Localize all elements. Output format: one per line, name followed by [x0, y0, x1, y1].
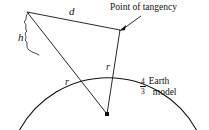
- radio-horizon-diagram: d h r r Point of tangency 4 3 Earth mode…: [0, 0, 209, 130]
- fraction-four-thirds: 4 3: [140, 78, 146, 95]
- label-earth-model: 4 3 Earth model: [140, 76, 177, 97]
- label-radius-left: r: [65, 77, 69, 87]
- tangency-arrowhead: [119, 25, 126, 31]
- height-brace: [24, 13, 39, 55]
- fraction-denominator: 3: [140, 86, 146, 95]
- earth-center-marker: [105, 112, 109, 116]
- fraction-numerator: 4: [140, 78, 146, 86]
- tangency-leader-line: [123, 16, 141, 29]
- earth-model-word-model: model: [149, 87, 177, 98]
- earth-model-words: Earth model: [149, 76, 177, 97]
- radius-line-tangency: [107, 30, 120, 114]
- label-point-of-tangency: Point of tangency: [110, 3, 177, 13]
- diagram-canvas: [0, 0, 209, 130]
- label-distance-d: d: [69, 6, 75, 17]
- earth-model-word-earth: Earth: [149, 76, 177, 87]
- radius-plus-height-line: [27, 12, 107, 114]
- label-radius-right: r: [106, 62, 110, 72]
- label-height-h: h: [18, 32, 24, 43]
